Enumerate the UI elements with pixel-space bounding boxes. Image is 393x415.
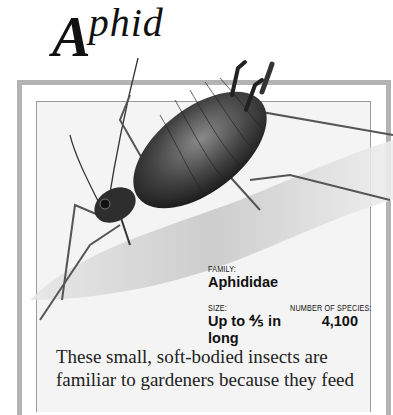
fact-size: SIZE: Up to ⅘ in long [208, 303, 281, 347]
species-label: NUMBER OF SPECIES: [290, 303, 358, 313]
title-initial: A [52, 4, 89, 69]
size-label: SIZE: [208, 303, 270, 313]
fact-family: FAMILY: Aphididae [208, 264, 278, 291]
body-paragraph: These small, soft-bodied insects are fam… [56, 345, 376, 391]
family-value: Aphididae [208, 274, 278, 291]
fact-species: NUMBER OF SPECIES: 4,100 [278, 303, 358, 330]
title-rest: phid [89, 0, 164, 45]
family-label: FAMILY: [208, 264, 268, 274]
species-value: 4,100 [278, 313, 358, 330]
size-value-line1: Up to ⅘ in [208, 313, 281, 330]
page-title: Aphid [52, 8, 164, 66]
